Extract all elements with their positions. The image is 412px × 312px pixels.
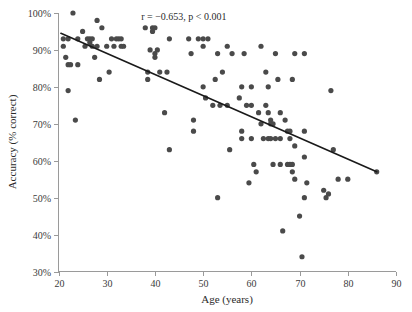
data-point — [73, 117, 78, 122]
y-tick-label: 50% — [33, 193, 51, 204]
scatter-plot-figure: 30%40%50%60%70%80%90%100% 20304050607080… — [0, 0, 412, 312]
data-point — [261, 136, 266, 141]
data-point — [229, 51, 234, 56]
data-point — [94, 18, 99, 23]
y-tick-label: 70% — [33, 119, 51, 130]
data-point — [326, 191, 331, 196]
data-point — [63, 55, 68, 60]
data-point — [239, 84, 244, 89]
data-point — [66, 88, 71, 93]
data-point — [220, 69, 225, 74]
data-point — [121, 44, 126, 49]
data-point — [167, 147, 172, 152]
x-tick-label: 80 — [344, 278, 354, 289]
x-tick-label: 50 — [199, 278, 209, 289]
y-tick-label: 90% — [33, 45, 51, 56]
data-point — [249, 103, 254, 108]
data-point — [191, 129, 196, 134]
data-point — [290, 162, 295, 167]
data-point — [80, 29, 85, 34]
data-point — [302, 195, 307, 200]
data-point — [278, 136, 283, 141]
data-point — [258, 44, 263, 49]
y-axis-tick-labels: 30%40%50%60%70%80%90%100% — [28, 8, 51, 278]
data-point — [237, 95, 242, 100]
data-point — [210, 103, 215, 108]
x-tick-label: 40 — [151, 278, 161, 289]
data-point — [201, 84, 206, 89]
data-point — [70, 10, 75, 15]
data-point-series — [61, 10, 380, 259]
data-point — [290, 77, 295, 82]
data-point — [328, 88, 333, 93]
data-point — [148, 47, 153, 52]
data-point — [292, 177, 297, 182]
data-point — [249, 84, 254, 89]
data-point — [152, 55, 157, 60]
data-point — [155, 47, 160, 52]
data-point — [196, 36, 201, 41]
data-point — [61, 44, 66, 49]
data-point — [225, 44, 230, 49]
y-tick-label: 40% — [33, 230, 51, 241]
y-axis-tick-marks — [54, 14, 59, 273]
data-point — [304, 180, 309, 185]
x-axis-tick-labels: 2030405060708090 — [55, 278, 402, 289]
data-point — [157, 69, 162, 74]
data-point — [292, 51, 297, 56]
data-point — [191, 117, 196, 122]
x-tick-label: 90 — [392, 278, 402, 289]
data-point — [244, 103, 249, 108]
data-point — [109, 36, 114, 41]
y-tick-label: 80% — [33, 82, 51, 93]
data-point — [299, 254, 304, 259]
y-tick-label: 30% — [33, 267, 51, 278]
data-point — [251, 162, 256, 167]
data-point — [242, 51, 247, 56]
data-point — [215, 195, 220, 200]
data-point — [68, 62, 73, 67]
x-axis-tick-marks — [60, 272, 397, 277]
y-tick-label: 60% — [33, 156, 51, 167]
chart-canvas: 30%40%50%60%70%80%90%100% 20304050607080… — [0, 0, 412, 312]
data-point — [162, 110, 167, 115]
y-axis-title: Accuracy (% correct) — [6, 94, 19, 189]
data-point — [283, 117, 288, 122]
x-axis-title: Age (years) — [201, 293, 253, 306]
data-point — [205, 36, 210, 41]
data-point — [97, 77, 102, 82]
data-point — [215, 51, 220, 56]
data-point — [268, 136, 273, 141]
data-point — [186, 36, 191, 41]
data-point — [345, 177, 350, 182]
data-point — [143, 25, 148, 30]
data-point — [239, 129, 244, 134]
data-point — [273, 136, 278, 141]
data-point — [152, 25, 157, 30]
data-point — [104, 44, 109, 49]
data-point — [292, 143, 297, 148]
data-point — [92, 55, 97, 60]
x-tick-label: 30 — [103, 278, 113, 289]
data-point — [302, 129, 307, 134]
data-point — [145, 77, 150, 82]
data-point — [290, 169, 295, 174]
data-point — [99, 25, 104, 30]
data-point — [270, 162, 275, 167]
data-point — [302, 51, 307, 56]
data-point — [201, 36, 206, 41]
data-point — [249, 136, 254, 141]
data-point — [297, 214, 302, 219]
data-point — [278, 110, 283, 115]
data-point — [213, 77, 218, 82]
data-point — [119, 36, 124, 41]
data-point — [107, 69, 112, 74]
data-point — [273, 51, 278, 56]
data-point — [164, 69, 169, 74]
data-point — [263, 69, 268, 74]
data-point — [254, 169, 259, 174]
data-point — [201, 44, 206, 49]
data-point — [90, 36, 95, 41]
data-point — [275, 77, 280, 82]
data-point — [266, 110, 271, 115]
